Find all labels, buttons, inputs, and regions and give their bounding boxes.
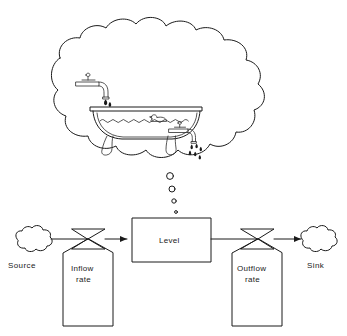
inflow-rate-label-line1: Inflow	[71, 264, 94, 273]
source-cloud[interactable]	[16, 226, 52, 252]
outflow-to-sink-arrow	[274, 236, 301, 242]
outlet-water-drops	[189, 144, 202, 160]
thought-cloud	[51, 17, 264, 157]
outflow-rate-label-line2: rate	[245, 275, 260, 284]
source-label: Source	[8, 261, 36, 270]
level-label: Level	[159, 236, 180, 245]
diagram-canvas: Source Inflow rate Level	[0, 0, 347, 336]
bathtub-rim	[90, 107, 202, 111]
bathtub-body	[93, 111, 200, 139]
inflow-to-level-arrow	[105, 236, 127, 242]
sink-label: Sink	[307, 261, 325, 270]
diagram-svg: Source Inflow rate Level	[0, 0, 347, 336]
outlet-faucet-icon	[169, 121, 196, 143]
inlet-faucet-icon	[76, 73, 109, 99]
outflow-rate-label-line1: Outflow	[237, 264, 266, 273]
inflow-rate-label-line2: rate	[76, 275, 91, 284]
bathtub-water-surface	[100, 120, 188, 123]
inlet-water-drops	[104, 100, 111, 107]
thought-tail-dots	[167, 173, 178, 214]
bathtub-scene	[76, 73, 202, 159]
sink-cloud[interactable]	[301, 226, 337, 252]
